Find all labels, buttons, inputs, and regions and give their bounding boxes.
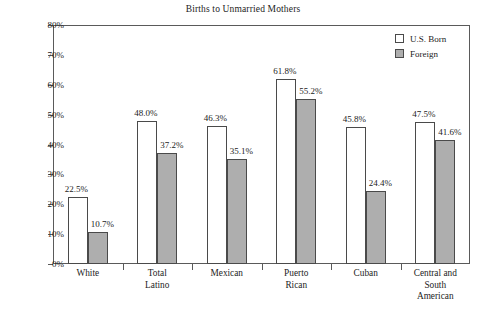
x-axis-category-label-line: South <box>401 280 471 292</box>
x-axis-category-label: Cuban <box>331 268 401 280</box>
bar-us-born <box>276 79 296 264</box>
x-axis-category-label-line: Puerto <box>262 268 332 280</box>
bar-value-label: 35.1% <box>230 146 253 156</box>
legend-label: U.S. Born <box>410 34 446 44</box>
y-axis-tick-label: 10% <box>48 229 65 239</box>
x-axis-category-label-line: Cuban <box>331 268 401 280</box>
x-axis-category-label-line: American <box>401 291 471 303</box>
y-axis-tick-label: 80% <box>48 20 65 30</box>
bar-us-born <box>415 122 435 264</box>
bar-foreign <box>88 232 108 264</box>
legend-swatch-foreign <box>395 49 404 58</box>
x-axis-category-label-line: Rican <box>262 280 332 292</box>
bar-value-label: 61.8% <box>273 66 296 76</box>
legend-item: U.S. Born <box>395 31 446 46</box>
x-axis-category-label: TotalLatino <box>123 268 193 291</box>
y-axis-tick-label: 60% <box>48 80 65 90</box>
bar-foreign <box>157 153 177 264</box>
chart-legend: U.S. BornForeign <box>395 31 446 61</box>
bar-us-born <box>137 121 157 264</box>
y-axis-tick-label: 30% <box>48 169 65 179</box>
x-axis-category-label: PuertoRican <box>262 268 332 291</box>
x-axis-category-label-line: Total <box>123 268 193 280</box>
bar-foreign <box>227 159 247 264</box>
x-axis-category-label: White <box>53 268 123 280</box>
bar-us-born <box>346 127 366 264</box>
bar-value-label: 22.5% <box>65 184 88 194</box>
bar-value-label: 24.4% <box>369 178 392 188</box>
bar-value-label: 55.2% <box>299 86 322 96</box>
x-axis-category-label-line: Mexican <box>192 268 262 280</box>
legend-item: Foreign <box>395 46 446 61</box>
bar-us-born <box>68 197 88 264</box>
bar-foreign <box>435 140 455 264</box>
bar-value-label: 41.6% <box>438 127 461 137</box>
x-axis-category-label: Mexican <box>192 268 262 280</box>
x-axis-category-label: Central andSouthAmerican <box>401 268 471 303</box>
bar-value-label: 10.7% <box>91 219 114 229</box>
chart-title: Births to Unmarried Mothers <box>0 4 486 14</box>
bar-value-label: 46.3% <box>204 113 227 123</box>
bar-value-label: 37.2% <box>160 140 183 150</box>
y-axis-tick-label: 50% <box>48 110 65 120</box>
bar-foreign <box>296 99 316 264</box>
legend-swatch-us-born <box>395 34 404 43</box>
bar-value-label: 45.8% <box>343 114 366 124</box>
bar-chart: Births to Unmarried Mothers 0%10%20%30%4… <box>0 0 486 325</box>
bar-value-label: 47.5% <box>412 109 435 119</box>
y-axis-tick-label: 40% <box>48 140 65 150</box>
bar-us-born <box>207 126 227 264</box>
bar-value-label: 48.0% <box>134 108 157 118</box>
y-axis-tick-label: 70% <box>48 50 65 60</box>
x-axis-category-label-line: White <box>53 268 123 280</box>
x-axis-category-label-line: Central and <box>401 268 471 280</box>
x-axis-category-label-line: Latino <box>123 280 193 292</box>
bar-foreign <box>366 191 386 264</box>
y-axis-tick-label: 20% <box>48 199 65 209</box>
legend-label: Foreign <box>410 49 438 59</box>
